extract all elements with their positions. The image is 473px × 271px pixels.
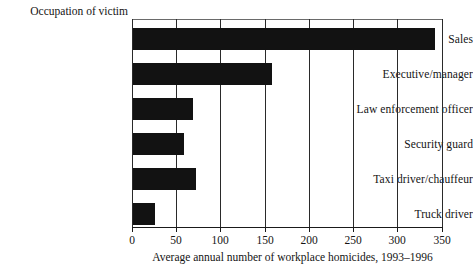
tick-0 bbox=[132, 228, 133, 232]
plot-top-border bbox=[132, 19, 442, 20]
gridline-250 bbox=[353, 19, 354, 228]
gridline-100 bbox=[220, 19, 221, 228]
gridline-350 bbox=[442, 19, 443, 228]
tick-label-100: 100 bbox=[200, 234, 240, 247]
gridline-300 bbox=[397, 19, 398, 228]
gridline-200 bbox=[309, 19, 310, 228]
x-axis-caption: Average annual number of workplace homic… bbox=[120, 251, 465, 264]
tick-100 bbox=[220, 228, 221, 232]
y-axis-title: Occupation of victim bbox=[0, 5, 128, 17]
tick-label-200: 200 bbox=[289, 234, 329, 247]
bar-security-guard bbox=[133, 133, 184, 155]
gridline-0 bbox=[132, 19, 133, 228]
tick-label-150: 150 bbox=[245, 234, 285, 247]
tick-label-350: 350 bbox=[422, 234, 462, 247]
bar-law-enforcement-officer bbox=[133, 98, 193, 120]
tick-label-250: 250 bbox=[333, 234, 373, 247]
workplace-homicides-bar-chart: Occupation of victim Sales Executive/man… bbox=[0, 0, 473, 271]
tick-350 bbox=[442, 228, 443, 232]
tick-250 bbox=[353, 228, 354, 232]
tick-label-300: 300 bbox=[377, 234, 417, 247]
tick-150 bbox=[265, 228, 266, 232]
tick-label-50: 50 bbox=[156, 234, 196, 247]
bar-truck-driver bbox=[133, 203, 155, 225]
tick-300 bbox=[397, 228, 398, 232]
tick-200 bbox=[309, 228, 310, 232]
tick-50 bbox=[176, 228, 177, 232]
plot-area: 0 50 100 150 200 250 300 350 bbox=[132, 19, 442, 228]
bar-executive-manager bbox=[133, 63, 272, 85]
tick-label-0: 0 bbox=[112, 234, 152, 247]
gridline-150 bbox=[265, 19, 266, 228]
bar-taxi-driver-chauffeur bbox=[133, 168, 196, 190]
bar-sales bbox=[133, 28, 435, 50]
gridline-50 bbox=[176, 19, 177, 228]
